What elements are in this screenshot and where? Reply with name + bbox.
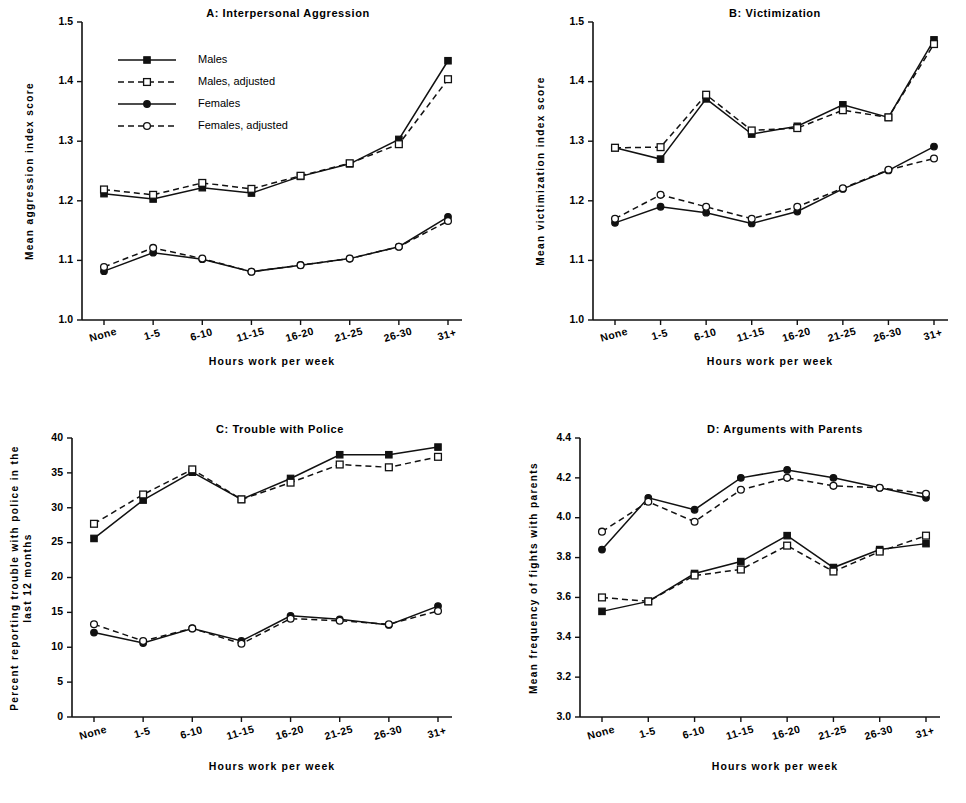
y-tick-label: 25 xyxy=(51,535,63,547)
legend-label: Males, adjusted xyxy=(198,75,275,87)
data-point-marker xyxy=(189,625,196,632)
data-point-marker xyxy=(931,143,938,150)
data-point-marker xyxy=(830,568,837,575)
panel-a-interpersonal-aggression: A: Interpersonal Aggression1.01.11.21.31… xyxy=(0,0,490,400)
y-tick-label: 1.1 xyxy=(569,253,584,265)
panel-c-trouble-with-police: C: Trouble with Police0510152025303540No… xyxy=(0,400,490,803)
data-point-marker xyxy=(297,262,304,269)
data-point-marker xyxy=(445,76,452,83)
svg-text:Mean frequency of fights with: Mean frequency of fights with parents xyxy=(528,462,539,694)
legend: MalesMales, adjustedFemalesFemales, adju… xyxy=(118,53,288,131)
y-tick-label: 4.4 xyxy=(556,431,571,443)
data-point-marker xyxy=(748,215,755,222)
data-point-marker xyxy=(101,264,108,271)
data-point-marker xyxy=(101,186,108,193)
svg-text:last 12 months: last 12 months xyxy=(22,533,33,623)
legend-label: Females xyxy=(198,97,241,109)
data-point-marker xyxy=(703,91,710,98)
panel-b-plot: B: Victimization1.01.11.21.31.41.5None1-… xyxy=(490,0,966,400)
x-tick-label: None xyxy=(78,723,108,742)
legend-marker-sample xyxy=(144,123,151,130)
data-point-marker xyxy=(703,203,710,210)
data-point-marker xyxy=(794,203,801,210)
data-point-marker xyxy=(691,572,698,579)
panel-d-arguments-with-parents: D: Arguments with Parents3.03.23.43.63.8… xyxy=(490,400,966,803)
y-axis-label: Mean aggression index score xyxy=(24,82,35,260)
x-tick-label: 26-30 xyxy=(863,722,894,741)
x-tick-label: 11-15 xyxy=(225,722,255,741)
data-point-marker xyxy=(150,191,157,198)
data-point-marker xyxy=(346,160,353,167)
data-point-marker xyxy=(248,268,255,275)
panel-title: A: Interpersonal Aggression xyxy=(206,7,370,19)
data-point-marker xyxy=(738,475,745,482)
panel-d-plot: D: Arguments with Parents3.03.23.43.63.8… xyxy=(490,400,966,803)
series-line xyxy=(602,536,926,602)
x-tick-label: 1-5 xyxy=(638,724,657,740)
data-point-marker xyxy=(435,453,442,460)
data-point-marker xyxy=(238,640,245,647)
x-tick-label: 1-5 xyxy=(133,724,152,740)
x-tick-label: 31+ xyxy=(436,326,458,343)
x-tick-label: 31+ xyxy=(426,724,448,741)
data-point-marker xyxy=(337,452,343,458)
data-point-marker xyxy=(931,41,938,48)
y-axis-label: Percent reporting trouble with police in… xyxy=(9,445,33,711)
x-tick-label: 6-10 xyxy=(189,325,214,343)
data-point-marker xyxy=(385,621,392,628)
panel-title: B: Victimization xyxy=(729,7,821,19)
x-tick-label: 21-25 xyxy=(333,324,364,343)
x-tick-label: 1-5 xyxy=(650,326,669,342)
data-point-marker xyxy=(830,482,837,489)
figure-four-panel-line-charts: A: Interpersonal Aggression1.01.11.21.31… xyxy=(0,0,966,803)
svg-text:Percent reporting trouble with: Percent reporting trouble with police in… xyxy=(9,445,20,711)
data-point-marker xyxy=(691,506,698,513)
data-point-marker xyxy=(657,156,663,162)
data-point-marker xyxy=(91,629,98,636)
x-tick-label: 11-15 xyxy=(725,722,755,741)
x-tick-label: 16-20 xyxy=(781,324,812,343)
x-tick-label: 21-25 xyxy=(817,722,848,741)
legend-marker-sample xyxy=(144,101,151,108)
y-tick-label: 3.4 xyxy=(556,630,571,642)
series-line xyxy=(602,470,926,550)
data-point-marker xyxy=(386,452,392,458)
panel-title: C: Trouble with Police xyxy=(216,423,344,435)
data-point-marker xyxy=(737,486,744,493)
x-tick-label: 11-15 xyxy=(735,324,765,343)
data-point-marker xyxy=(612,144,619,151)
data-point-marker xyxy=(784,474,791,481)
x-tick-label: 31+ xyxy=(922,326,944,343)
data-point-marker xyxy=(923,490,930,497)
x-tick-label: None xyxy=(599,325,629,344)
y-tick-label: 1.2 xyxy=(58,194,73,206)
y-tick-label: 1.0 xyxy=(58,313,73,325)
data-point-marker xyxy=(91,535,97,541)
x-tick-label: 11-15 xyxy=(235,324,265,343)
panel-title: D: Arguments with Parents xyxy=(707,423,863,435)
x-tick-label: None xyxy=(88,325,118,344)
panel-a-plot: A: Interpersonal Aggression1.01.11.21.31… xyxy=(0,0,490,400)
data-point-marker xyxy=(612,215,619,222)
y-tick-label: 10 xyxy=(51,640,63,652)
data-point-marker xyxy=(691,518,698,525)
data-point-marker xyxy=(91,520,98,527)
y-tick-label: 40 xyxy=(51,431,63,443)
y-tick-label: 30 xyxy=(51,501,63,513)
data-point-marker xyxy=(445,218,452,225)
data-point-marker xyxy=(794,125,801,132)
x-tick-label: 21-25 xyxy=(826,324,857,343)
data-point-marker xyxy=(150,244,157,251)
data-point-marker xyxy=(599,608,605,614)
data-point-marker xyxy=(287,479,294,486)
data-point-marker xyxy=(395,141,402,148)
y-tick-label: 3.6 xyxy=(556,590,571,602)
y-tick-label: 3.8 xyxy=(556,550,571,562)
data-point-marker xyxy=(297,172,304,179)
y-tick-label: 20 xyxy=(51,570,63,582)
y-tick-label: 1.1 xyxy=(58,253,73,265)
data-point-marker xyxy=(140,638,147,645)
y-axis-label: Mean victimization index score xyxy=(535,76,546,265)
x-tick-label: None xyxy=(586,723,616,742)
y-tick-label: 15 xyxy=(51,605,63,617)
